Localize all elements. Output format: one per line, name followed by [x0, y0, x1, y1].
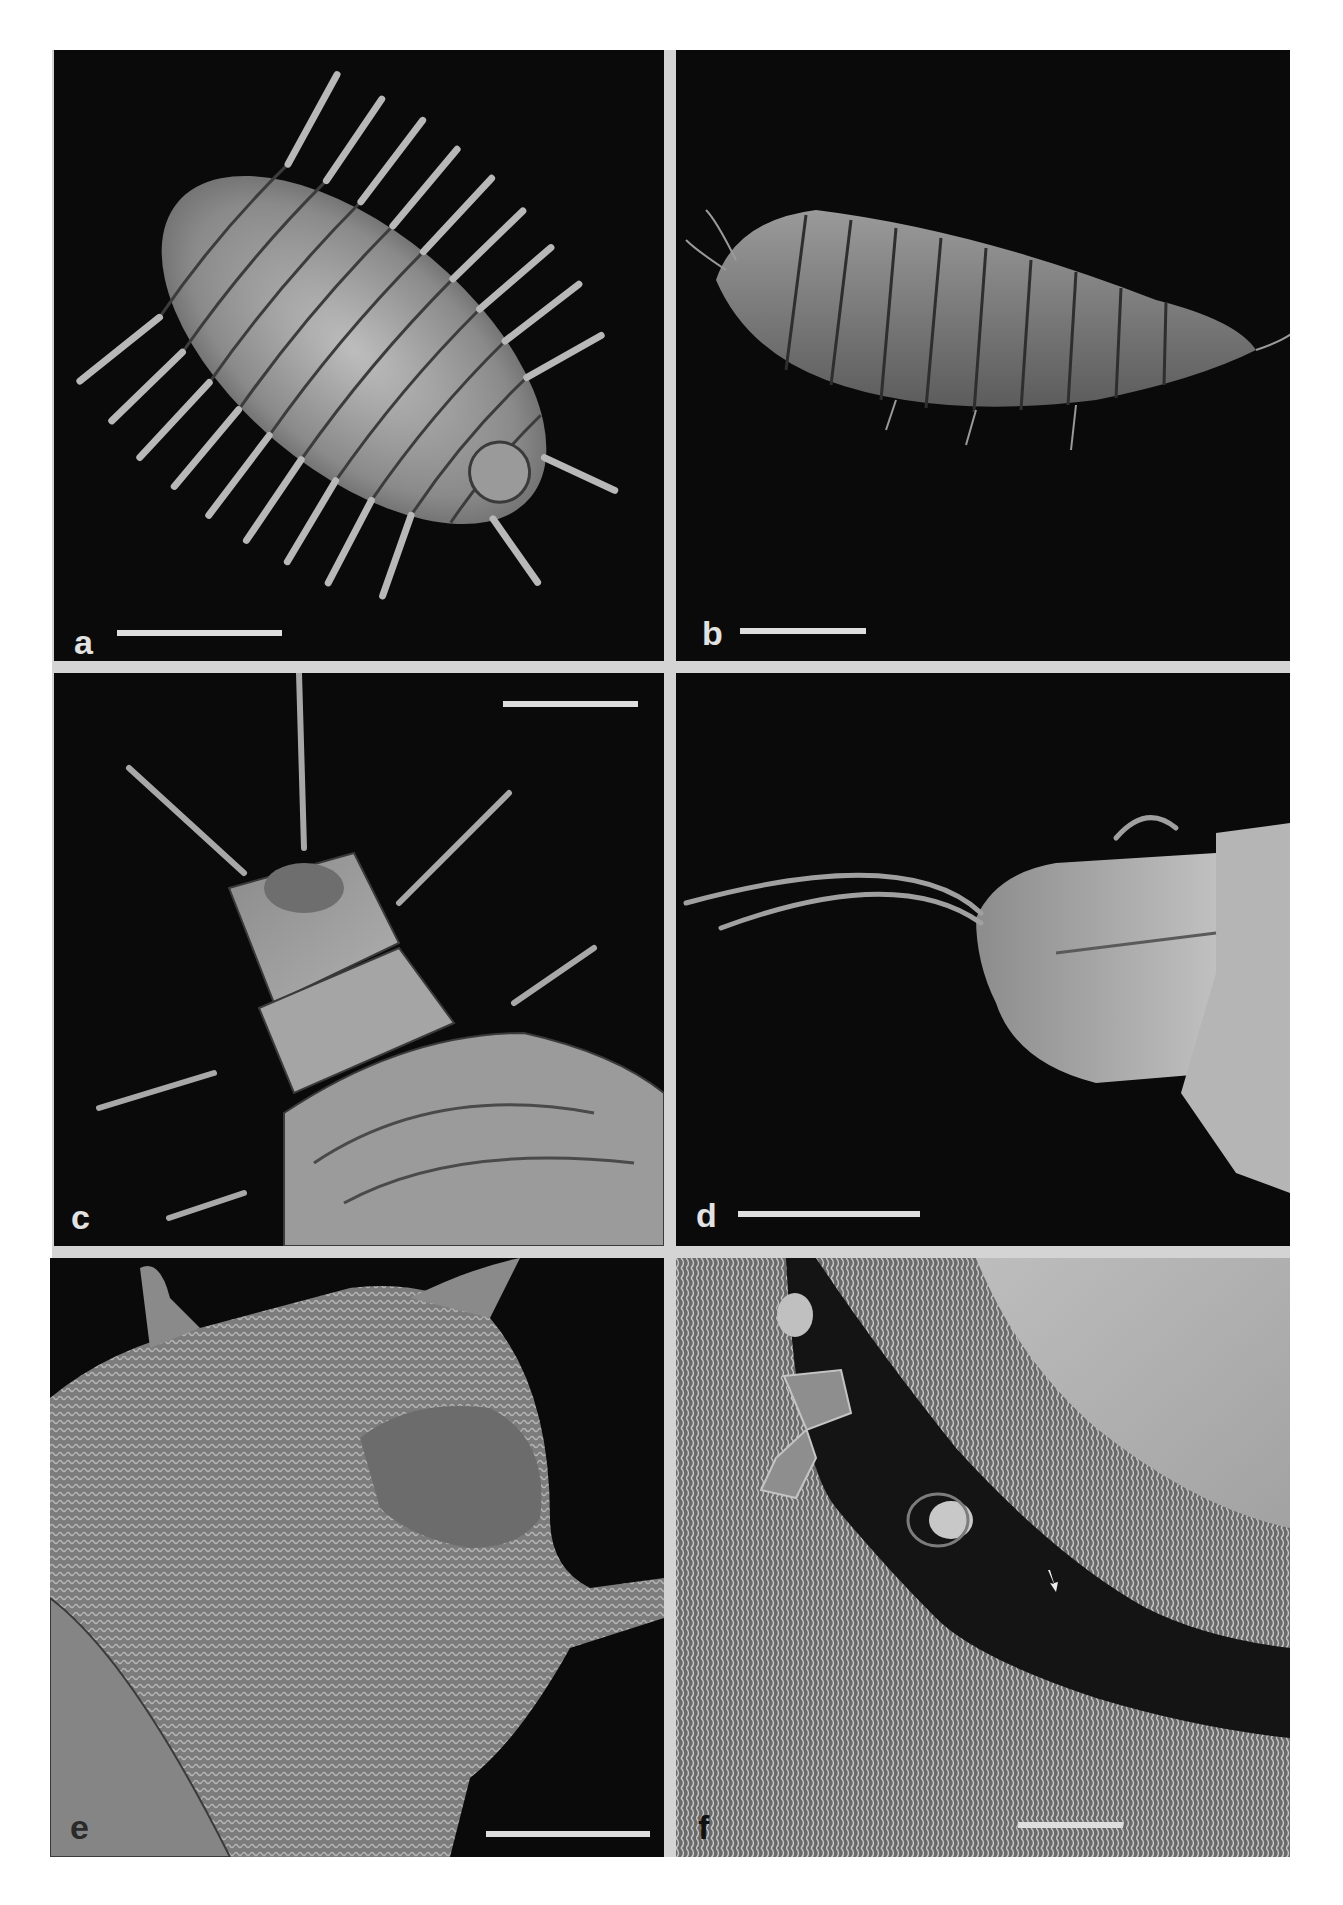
panel-label-e: e	[70, 1810, 89, 1844]
panel-e: e	[50, 1258, 664, 1857]
larva-dorsal-image	[54, 50, 664, 661]
panel-d: d	[676, 673, 1290, 1246]
scale-bar-b	[740, 628, 866, 634]
panel-f: f	[676, 1258, 1290, 1857]
larva-head-thorax-image	[54, 673, 664, 1246]
panel-label-a: a	[74, 625, 93, 659]
larva-lateral-image	[676, 50, 1290, 661]
sensilla-detail-image	[676, 1258, 1290, 1857]
cuticle-surface-closeup-image	[50, 1258, 664, 1857]
scale-bar-e	[486, 1831, 650, 1837]
panel-a: a	[54, 50, 664, 661]
larva-terminal-segment-image	[676, 673, 1290, 1246]
scale-bar-d	[738, 1211, 920, 1217]
panel-label-d: d	[696, 1198, 717, 1232]
scale-bar-c	[503, 701, 638, 707]
panel-label-c: c	[71, 1200, 90, 1234]
white-arrow-icon	[1046, 1570, 1060, 1596]
panel-c: c	[54, 673, 664, 1246]
panel-b: b	[676, 50, 1290, 661]
panel-label-b: b	[702, 616, 723, 650]
scale-bar-a	[117, 630, 282, 636]
panel-label-f: f	[698, 1810, 709, 1844]
scale-bar-f	[1018, 1822, 1123, 1828]
